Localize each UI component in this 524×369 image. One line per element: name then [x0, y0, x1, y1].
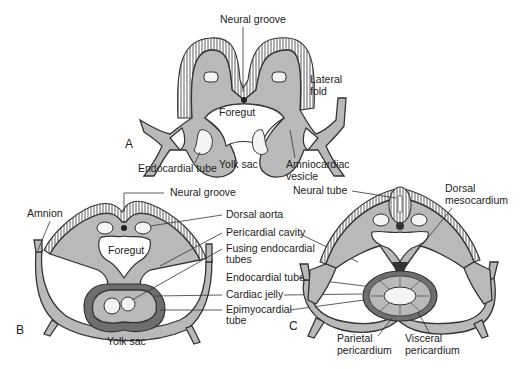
b-label-foregut: Foregut: [108, 244, 144, 256]
c-label-parietal-2: pericardium: [337, 344, 392, 356]
a-label-endocardial-tube: Endocardial tube: [138, 162, 217, 174]
label-epimyocardial-2: tube: [226, 314, 247, 326]
b-notochord: [121, 225, 127, 231]
panel-a: Neural groove Lateral fold Foregut A End…: [125, 13, 350, 182]
c-label-visceral-2: pericardium: [405, 344, 460, 356]
a-dorsal-aorta-left: [204, 72, 218, 82]
label-fusing-2: tubes: [226, 253, 252, 265]
leader-epimyocardial-c: [290, 300, 364, 310]
c-label-visceral-1: Visceral: [405, 332, 442, 344]
c-label-parietal-1: Parietal: [337, 332, 373, 344]
c-notochord: [396, 222, 404, 230]
panel-b: Neural groove Amnion Foregut B Yolk sac: [16, 186, 236, 347]
c-label-dorsal-meso-1: Dorsal: [445, 182, 475, 194]
b-label-neural-groove: Neural groove: [170, 186, 236, 198]
panel-c: Neural tube Dorsal mesocardium C Parieta…: [289, 182, 508, 356]
c-dorsal-aorta-right: [411, 214, 427, 226]
a-label-lateral-fold-2: fold: [310, 85, 327, 97]
b-endocardial-tube-left: [104, 298, 120, 314]
c-panel-letter: C: [289, 319, 298, 333]
c-dorsal-aorta-left: [373, 214, 389, 226]
a-label-amniocardiac-1: Amniocardiac: [286, 158, 350, 170]
b-dorsal-aorta-right: [135, 222, 151, 234]
label-cardiac-jelly: Cardiac jelly: [226, 288, 284, 300]
c-endocardial-tube: [384, 287, 416, 305]
a-label-foregut: Foregut: [219, 106, 255, 118]
label-pericardial-cavity: Pericardial cavity: [226, 226, 306, 238]
b-panel-letter: B: [16, 323, 24, 337]
a-notochord: [241, 97, 247, 103]
label-dorsal-aorta: Dorsal aorta: [226, 208, 283, 220]
b-label-yolk-sac: Yolk sac: [107, 335, 146, 347]
leader-cardiac-jelly-b: [155, 295, 222, 296]
label-endocardial-tube: Endocardial tube: [226, 271, 305, 283]
c-label-neural-tube: Neural tube: [293, 184, 347, 196]
a-label-neural-groove: Neural groove: [220, 13, 286, 25]
a-dorsal-aorta-right: [272, 72, 286, 82]
a-panel-letter: A: [125, 137, 133, 151]
c-neural-canal: [398, 196, 402, 212]
b-label-amnion: Amnion: [27, 207, 63, 219]
a-label-yolk-sac: Yolk sac: [219, 158, 258, 170]
a-label-lateral-fold-1: Lateral: [310, 73, 342, 85]
b-dorsal-aorta-left: [97, 222, 113, 234]
a-label-amniocardiac-2: vesicle: [286, 170, 318, 182]
c-label-dorsal-meso-2: mesocardium: [445, 194, 508, 206]
embryo-heart-diagram: Neural groove Lateral fold Foregut A End…: [0, 0, 524, 369]
